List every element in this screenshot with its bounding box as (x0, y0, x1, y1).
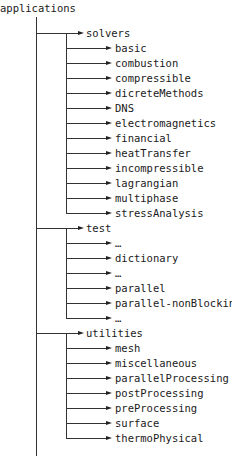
folder-item[interactable]: parallelProcessing (115, 372, 229, 384)
folder-item[interactable]: surface (115, 417, 159, 429)
folder-item[interactable]: financial (115, 132, 172, 144)
branch-line (66, 423, 106, 424)
folder-item[interactable]: parallel (115, 282, 166, 294)
folder-item[interactable]: heatTransfer (115, 147, 191, 159)
folder-item[interactable]: DNS (115, 102, 134, 114)
arrow-icon (106, 136, 112, 140)
folder-item[interactable]: stressAnalysis (115, 207, 204, 219)
arrow-icon (106, 316, 112, 320)
folder-item[interactable]: … (115, 237, 121, 249)
trunk-line (36, 17, 37, 456)
folder-item[interactable]: basic (115, 42, 147, 54)
folder-solvers[interactable]: solvers (86, 27, 130, 39)
branch-line (66, 288, 106, 289)
branch-line (66, 198, 106, 199)
arrow-icon (106, 241, 112, 245)
folder-item[interactable]: miscellaneous (115, 357, 197, 369)
arrow-icon (106, 421, 112, 425)
arrow-icon (106, 376, 112, 380)
folder-utilities[interactable]: utilities (86, 327, 143, 339)
folder-item[interactable]: incompressible (115, 162, 204, 174)
branch-line (66, 93, 106, 94)
arrow-icon (78, 331, 84, 335)
branch-line (66, 303, 106, 304)
arrow-icon (78, 226, 84, 230)
branch-line (36, 333, 78, 334)
arrow-icon (106, 286, 112, 290)
arrow-icon (78, 31, 84, 35)
arrow-icon (106, 436, 112, 440)
folder-item[interactable]: lagrangian (115, 177, 178, 189)
branch-line (66, 393, 106, 394)
branch-line (66, 348, 106, 349)
branch-line (66, 243, 106, 244)
folder-item[interactable]: multiphase (115, 192, 178, 204)
folder-item[interactable]: thermoPhysical (115, 432, 204, 444)
folder-item[interactable]: preProcessing (115, 402, 197, 414)
arrow-icon (106, 406, 112, 410)
branch-line (66, 378, 106, 379)
arrow-icon (106, 346, 112, 350)
branch-line (66, 213, 106, 214)
arrow-icon (106, 271, 112, 275)
branch-line (36, 33, 78, 34)
branch-line (66, 363, 106, 364)
arrow-icon (106, 151, 112, 155)
folder-item[interactable]: … (115, 267, 121, 279)
arrow-icon (106, 121, 112, 125)
branch-line (66, 333, 67, 439)
folder-item[interactable]: postProcessing (115, 387, 204, 399)
folder-item[interactable]: mesh (115, 342, 140, 354)
branch-line (66, 123, 106, 124)
folder-item[interactable]: compressible (115, 72, 191, 84)
arrow-icon (106, 196, 112, 200)
folder-item[interactable]: parallel-nonBlocking (115, 297, 232, 309)
arrow-icon (106, 76, 112, 80)
folder-item[interactable]: electromagnetics (115, 117, 216, 129)
arrow-icon (106, 106, 112, 110)
arrow-icon (106, 166, 112, 170)
branch-line (66, 318, 106, 319)
branch-line (66, 48, 106, 49)
folder-test[interactable]: test (86, 222, 111, 234)
branch-line (66, 153, 106, 154)
arrow-icon (106, 91, 112, 95)
arrow-icon (106, 211, 112, 215)
branch-line (66, 33, 67, 214)
arrow-icon (106, 361, 112, 365)
arrow-icon (106, 391, 112, 395)
arrow-icon (106, 181, 112, 185)
root-node-label: applications (0, 2, 76, 14)
branch-line (66, 408, 106, 409)
branch-line (66, 168, 106, 169)
folder-item[interactable]: … (115, 312, 121, 324)
folder-item[interactable]: combustion (115, 57, 178, 69)
arrow-icon (106, 46, 112, 50)
branch-line (66, 258, 106, 259)
branch-line (66, 228, 67, 319)
branch-line (66, 108, 106, 109)
branch-line (66, 78, 106, 79)
folder-item[interactable]: dicreteMethods (115, 87, 204, 99)
folder-item[interactable]: dictionary (115, 252, 178, 264)
branch-line (66, 183, 106, 184)
branch-line (36, 228, 78, 229)
arrow-icon (106, 61, 112, 65)
arrow-icon (106, 301, 112, 305)
branch-line (66, 438, 106, 439)
arrow-icon (106, 256, 112, 260)
branch-line (66, 138, 106, 139)
branch-line (66, 63, 106, 64)
branch-line (66, 273, 106, 274)
